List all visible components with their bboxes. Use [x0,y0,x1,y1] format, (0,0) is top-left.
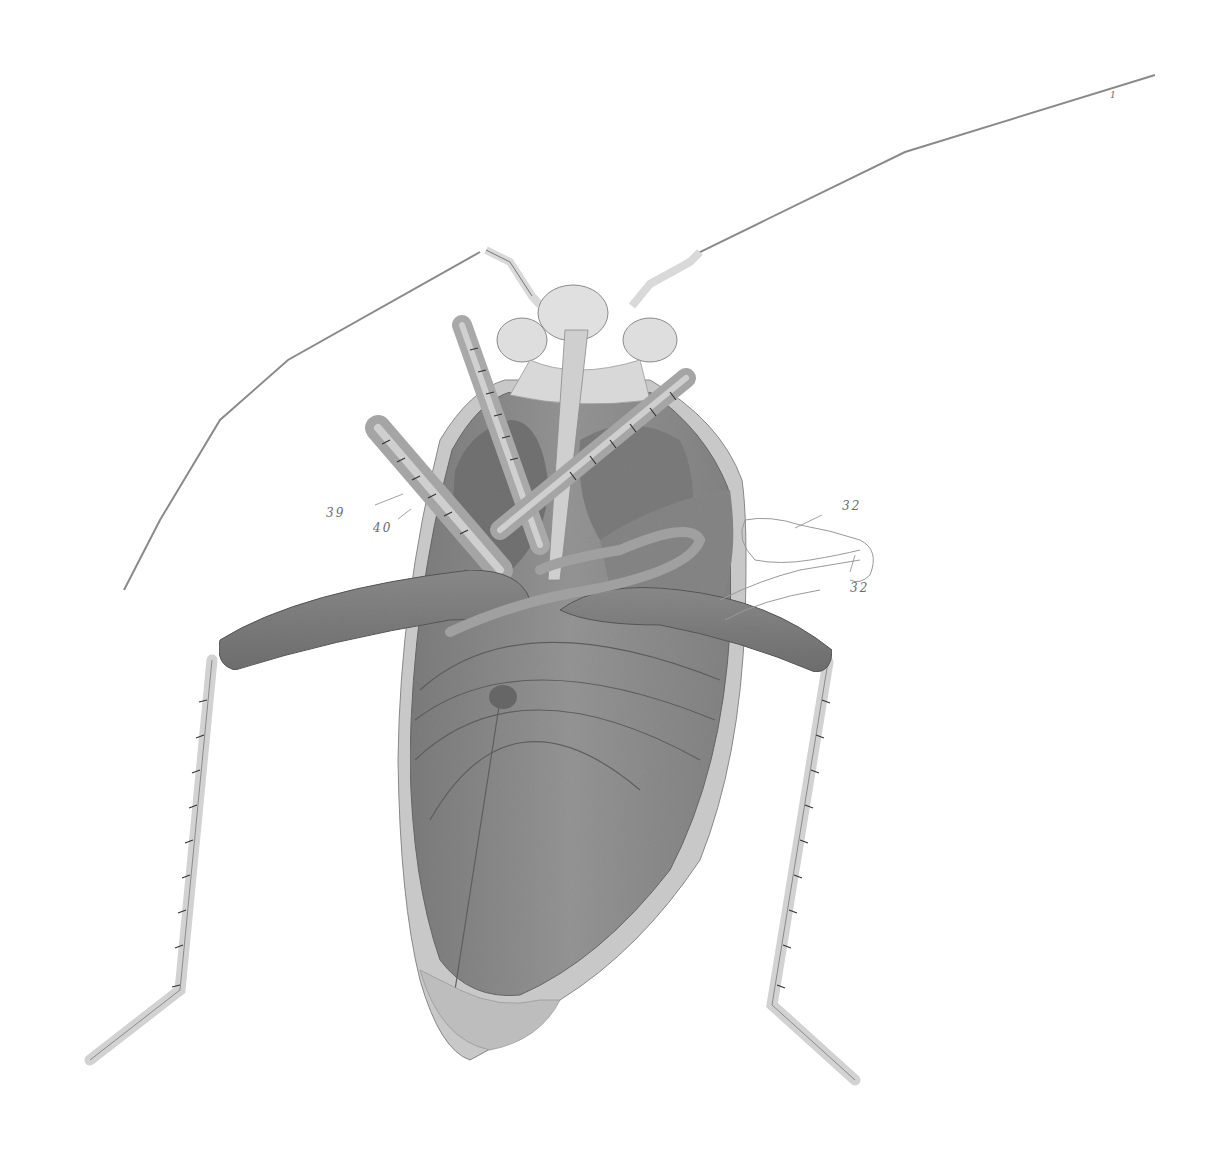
hind-leg-left [90,660,212,1060]
eye-right [623,318,677,362]
eye-left [497,318,547,362]
annotation-label-39: 39 [326,506,345,520]
hind-leg-right [772,662,855,1080]
insect-illustration [0,0,1219,1164]
annotation-label-32-bottom: 32 [850,581,869,595]
antenna-tip-mark: 1 [1110,90,1118,100]
annotation-label-32-top: 32 [842,499,861,513]
genital-plate [489,685,517,709]
annotation-label-40: 40 [373,521,392,535]
antenna-right [632,75,1155,306]
